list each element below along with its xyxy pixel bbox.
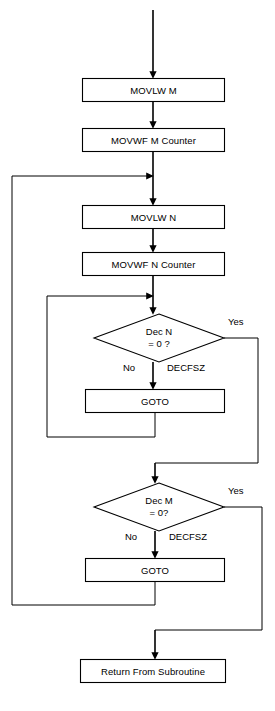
node-box-movwf-m (83, 129, 225, 152)
edge-label-dec-m-instruction: DECFSZ (169, 531, 207, 542)
node-label-dec-n: Dec N = 0 ? (109, 320, 209, 356)
node-box-movlw-n (83, 206, 225, 229)
dec-n-line1: Dec N (146, 326, 172, 338)
edge-label-dec-m-yes: Yes (228, 485, 244, 496)
node-box-goto-m (86, 559, 225, 582)
edge-label-dec-n-yes: Yes (228, 316, 244, 327)
node-box-goto-n (86, 390, 225, 413)
dec-n-line2: = 0 ? (148, 338, 169, 350)
flowchart-canvas: MOVLW M MOVWF M Counter MOVLW N MOVWF N … (0, 0, 275, 711)
node-box-movlw-m (83, 79, 225, 102)
node-box-return-subroutine (81, 660, 226, 683)
node-label-dec-m: Dec M = 0? (109, 489, 209, 525)
node-box-movwf-n (83, 253, 225, 276)
edge-label-dec-m-no: No (125, 531, 137, 542)
dec-m-line2: = 0? (150, 507, 169, 519)
edge-label-dec-n-no: No (123, 362, 135, 373)
dec-m-line1: Dec M (145, 495, 172, 507)
edge-label-dec-n-instruction: DECFSZ (167, 362, 205, 373)
edge-goto-n-loopback-inner (47, 296, 155, 437)
